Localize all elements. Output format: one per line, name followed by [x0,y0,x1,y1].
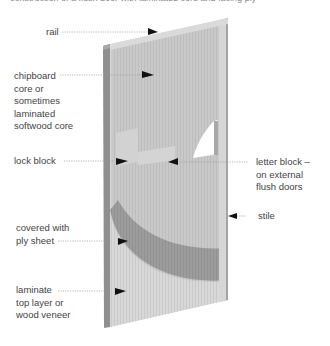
label-ply: covered with ply sheet [16,222,69,247]
label-stile: stile [258,210,275,223]
label-core: chipboard core or sometimes laminated so… [14,70,73,133]
label-rail: rail [46,26,59,39]
label-letter-block: letter block – on external flush doors [256,156,310,194]
label-lock-block: lock block [14,155,56,168]
arrow-stile [228,213,237,219]
door-edge [103,44,110,328]
label-laminate: laminate top layer or wood veneer [16,284,70,322]
